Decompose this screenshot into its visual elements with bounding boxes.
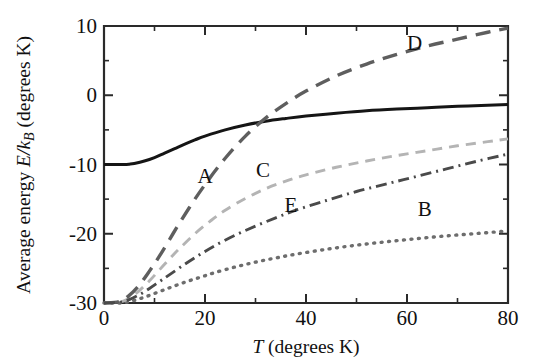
curve-label-E: E bbox=[284, 193, 297, 217]
y-tick-label: 10 bbox=[76, 14, 97, 38]
y-axis-units: (degrees K) bbox=[13, 36, 35, 132]
curve-label-B: B bbox=[418, 197, 432, 221]
curve-label-D: D bbox=[407, 31, 422, 55]
energy-vs-temperature-chart: 020406080 100-10-20-30 ABCDE T (degrees … bbox=[0, 0, 540, 361]
y-axis-symbol-k: k bbox=[13, 141, 34, 150]
x-tick-label: 80 bbox=[498, 306, 519, 330]
y-tick-label: -10 bbox=[69, 153, 97, 177]
x-axis-title: T (degrees K) bbox=[252, 336, 359, 358]
y-axis-symbol-e: E bbox=[13, 155, 34, 168]
x-tick-label: 0 bbox=[99, 306, 110, 330]
curve-label-A: A bbox=[197, 164, 213, 188]
x-axis-units: (degrees K) bbox=[263, 336, 359, 358]
curve-label-C: C bbox=[256, 158, 270, 182]
y-tick-label: -30 bbox=[69, 291, 97, 315]
y-axis-prefix: Average energy bbox=[13, 167, 34, 294]
y-tick-label: 0 bbox=[87, 83, 98, 107]
x-tick-label: 40 bbox=[296, 306, 317, 330]
y-axis-title: Average energy E/kB (degrees K) bbox=[13, 36, 37, 294]
x-tick-label: 20 bbox=[195, 306, 216, 330]
x-tick-label: 60 bbox=[397, 306, 418, 330]
y-tick-label: -20 bbox=[69, 222, 97, 246]
